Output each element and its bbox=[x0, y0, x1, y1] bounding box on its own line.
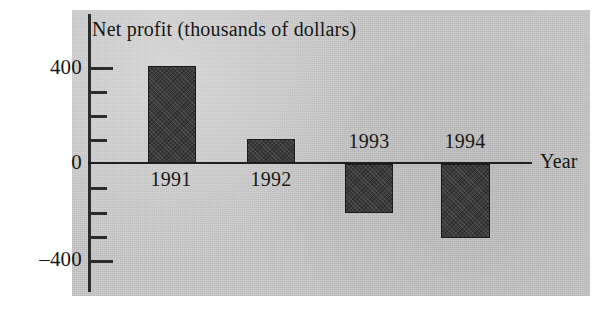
x-axis-label-1993: 1993 bbox=[329, 130, 409, 153]
x-axis-label-1992: 1992 bbox=[231, 168, 311, 191]
chart-screenshot: Net profit (thousands of dollars) 400 0 … bbox=[0, 0, 615, 314]
x-axis-title: Year bbox=[540, 150, 578, 173]
chart-text-layer: Net profit (thousands of dollars) 400 0 … bbox=[0, 0, 615, 314]
y-axis-label-400: 400 bbox=[22, 55, 82, 80]
x-axis-label-1994: 1994 bbox=[425, 130, 505, 153]
y-axis-label-negative-400: –400 bbox=[16, 247, 82, 272]
y-axis-label-0: 0 bbox=[22, 150, 82, 175]
x-axis-label-1991: 1991 bbox=[131, 168, 211, 191]
chart-title: Net profit (thousands of dollars) bbox=[92, 18, 356, 41]
